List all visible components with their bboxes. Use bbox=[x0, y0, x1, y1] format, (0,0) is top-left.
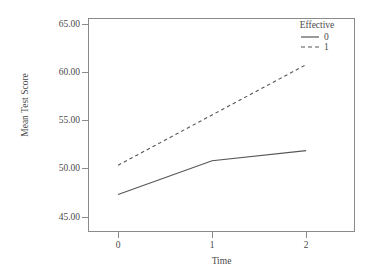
y-tick-label: 60.00 bbox=[59, 67, 80, 77]
legend-item-1: 1 bbox=[282, 42, 352, 52]
x-tick-label: 1 bbox=[192, 240, 232, 251]
series-line-1 bbox=[118, 65, 306, 166]
y-tick-label: 65.00 bbox=[59, 19, 80, 29]
y-axis: 65.00 60.00 55.00 50.00 45.00 bbox=[0, 0, 80, 275]
legend: Effective 0 1 bbox=[282, 20, 352, 52]
legend-key-dashed-line-icon bbox=[300, 43, 320, 51]
x-axis-title: Time bbox=[88, 256, 355, 266]
legend-key-solid-line-icon bbox=[300, 33, 320, 41]
y-tick-label: 55.00 bbox=[59, 115, 80, 125]
y-tick-label: 45.00 bbox=[59, 212, 80, 222]
legend-label: 0 bbox=[324, 32, 334, 42]
legend-title: Effective bbox=[282, 20, 352, 31]
x-tick-mark bbox=[306, 232, 307, 238]
y-axis-title: Mean Test Score bbox=[20, 35, 30, 175]
legend-label: 1 bbox=[324, 42, 334, 52]
legend-item-0: 0 bbox=[282, 32, 352, 42]
series-line-0 bbox=[118, 151, 306, 195]
y-tick-label: 50.00 bbox=[59, 163, 80, 173]
x-tick-label: 0 bbox=[98, 240, 138, 251]
x-tick-mark bbox=[118, 232, 119, 238]
line-chart: 65.00 60.00 55.00 50.00 45.00 Mean Test … bbox=[0, 0, 377, 275]
x-tick-mark bbox=[212, 232, 213, 238]
x-tick-label: 2 bbox=[286, 240, 326, 251]
